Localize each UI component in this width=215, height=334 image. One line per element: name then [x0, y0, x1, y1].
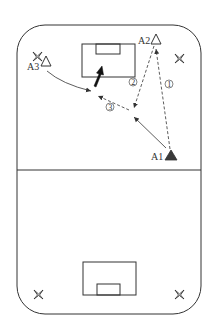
open-triangle-icon: [41, 56, 51, 66]
step-3-text: 3: [108, 103, 112, 112]
top-goal-box: [82, 44, 135, 77]
star-cone-icon: [175, 54, 184, 63]
cone-top-left: [33, 52, 42, 61]
cone-bottom-right: [175, 290, 184, 299]
player-a2: A2: [138, 34, 161, 46]
top-goal-area: [96, 44, 120, 54]
step-3-label: 3: [106, 103, 114, 112]
step-2-text: 2: [131, 78, 135, 87]
star-cone-icon: [34, 290, 43, 299]
pass-2-line: [134, 46, 154, 108]
step-2-label: 2: [129, 78, 137, 87]
top-goal: [82, 44, 135, 77]
field: [17, 25, 201, 314]
player-a2-label: A2: [138, 35, 150, 46]
bottom-goal: [83, 262, 136, 295]
bottom-goal-area: [97, 284, 120, 295]
player-a1-label: A1: [151, 151, 163, 162]
drill-diagram: A3 A2 A1 1 2 3: [0, 0, 215, 334]
player-a1: A1: [151, 150, 177, 162]
open-triangle-icon: [151, 34, 161, 44]
step-1-text: 1: [167, 80, 171, 89]
run-a3-line: [47, 71, 91, 91]
run-a1-line: [134, 117, 166, 148]
pass-3-line: [98, 96, 129, 110]
bottom-goal-box: [83, 262, 136, 295]
star-cone-icon: [175, 290, 184, 299]
filled-triangle-icon: [165, 150, 177, 160]
pass-1-line: [156, 49, 170, 149]
player-a3-label: A3: [27, 61, 39, 72]
step-1-label: 1: [165, 80, 173, 89]
cone-bottom-left: [34, 290, 43, 299]
star-cone-icon: [33, 52, 42, 61]
cone-top-right: [175, 54, 184, 63]
